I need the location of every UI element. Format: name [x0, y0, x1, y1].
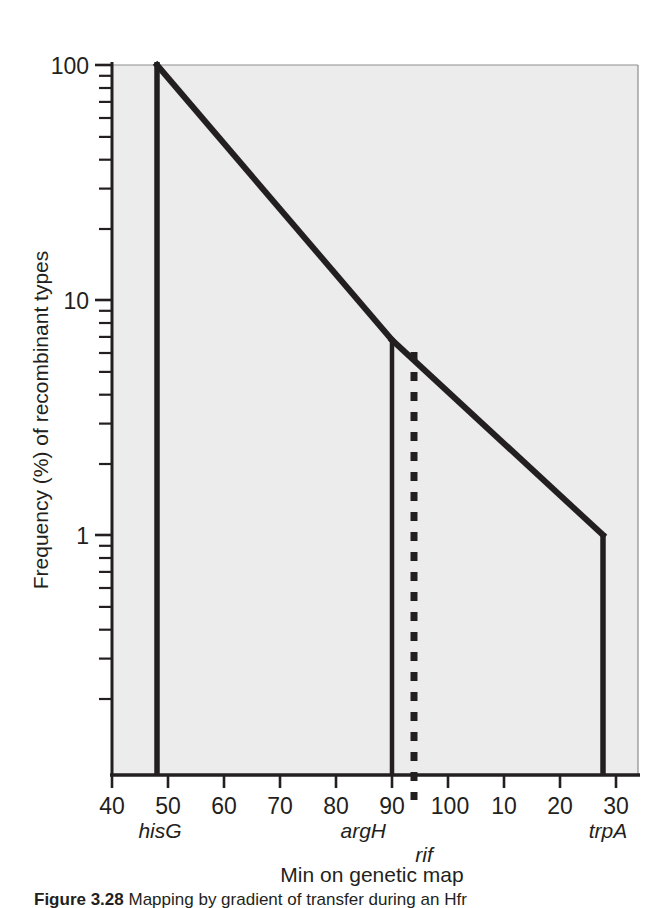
x-tick-label-90: 90 — [379, 793, 405, 819]
x-tick-label-50: 50 — [155, 793, 181, 819]
chart-canvas: 100 10 1 40 50 60 70 80 90 100 10 20 30 … — [0, 0, 666, 908]
figure-caption: Figure 3.28 Mapping by gradient of trans… — [34, 889, 634, 908]
x-tick-label-30: 30 — [603, 793, 629, 819]
gene-label-argH: argH — [340, 819, 386, 842]
x-axis-ticks — [112, 775, 616, 788]
gene-label-hisG: hisG — [138, 819, 181, 842]
plot-area-background — [112, 65, 638, 775]
y-axis-title: Frequency (%) of recombinant types — [29, 251, 52, 589]
x-axis-title: Min on genetic map — [280, 863, 463, 886]
y-tick-label-10: 10 — [63, 288, 89, 314]
figure-container: 100 10 1 40 50 60 70 80 90 100 10 20 30 … — [0, 0, 666, 908]
x-tick-label-20: 20 — [547, 793, 573, 819]
y-axis-minor-ticks — [99, 76, 112, 699]
x-tick-label-80: 80 — [323, 793, 349, 819]
y-tick-label-100: 100 — [51, 53, 89, 79]
x-tick-label-10: 10 — [491, 793, 517, 819]
figure-caption-text: Mapping by gradient of transfer during a… — [129, 890, 467, 908]
x-tick-label-100: 100 — [431, 793, 469, 819]
x-tick-label-40: 40 — [99, 793, 125, 819]
x-tick-label-70: 70 — [267, 793, 293, 819]
figure-caption-number: Figure 3.28 — [34, 890, 124, 908]
x-tick-label-60: 60 — [211, 793, 237, 819]
y-tick-label-1: 1 — [76, 523, 89, 549]
gene-label-trpA: trpA — [589, 819, 628, 842]
